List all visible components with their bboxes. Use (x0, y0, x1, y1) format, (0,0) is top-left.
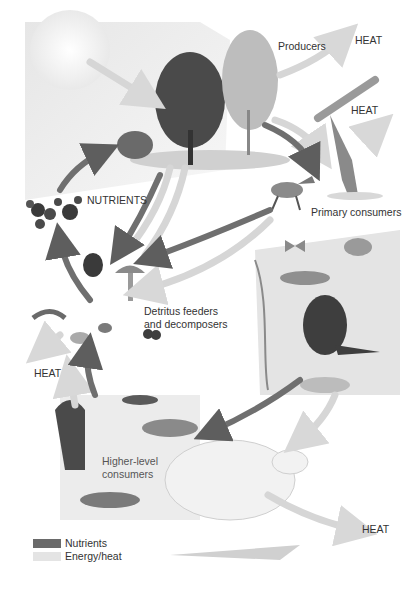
heat-label-detritus: HEAT (34, 367, 61, 380)
legend-swatch-nutrients (33, 539, 61, 548)
higher-consumers-illustration (55, 395, 308, 560)
eagle-illustration (55, 400, 85, 470)
hyena-illustration (122, 395, 158, 405)
giraffe-illustration (318, 80, 383, 200)
ecosystem-illustration (0, 0, 417, 591)
cheetah-illustration (142, 419, 198, 437)
fly-illustration (83, 253, 103, 277)
zebra-illustration (271, 176, 315, 210)
higher-consumers-label-line2: consumers (102, 468, 153, 481)
millipede-illustration (33, 312, 65, 319)
legend: Nutrients Energy/heat (33, 537, 153, 567)
nutrient-molecules-illustration (26, 196, 82, 229)
heat-label-primary: HEAT (351, 104, 378, 117)
producers-label: Producers (278, 40, 326, 53)
mushroom-illustration (115, 266, 145, 274)
higher-consumers-label-line1: Higher-level (102, 455, 158, 468)
sun-icon (30, 10, 110, 90)
legend-label-energy: Energy/heat (65, 550, 122, 563)
primary-consumers-label: Primary consumers (311, 206, 401, 219)
primary-consumers-illustration (255, 230, 400, 395)
heat-label-producers: HEAT (355, 34, 382, 47)
rabbit-illustration (344, 238, 372, 256)
heat-label-higher: HEAT (362, 523, 389, 536)
detritus-label-line2: and decomposers (144, 318, 227, 331)
fox-illustration (80, 492, 140, 508)
decomposers-illustration (33, 253, 161, 344)
grasshopper-illustration (280, 271, 330, 285)
legend-label-nutrients: Nutrients (65, 537, 107, 550)
nutrients-label: NUTRIENTS (87, 194, 147, 207)
polar-bear-illustration (165, 440, 295, 520)
detritus-label-line1: Detritus feeders (144, 305, 218, 318)
legend-swatch-energy (33, 552, 61, 561)
